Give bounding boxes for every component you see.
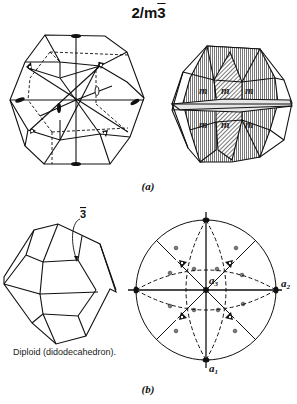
twofold-axis-top xyxy=(71,34,81,38)
twofold-axis-inner xyxy=(57,103,61,113)
caption-a: (a) xyxy=(128,180,168,192)
crystal-diagram: m m m m m m 3 xyxy=(0,0,297,404)
svg-text:m: m xyxy=(245,84,254,96)
pole-left xyxy=(134,287,139,294)
axis-label-a3: a3 xyxy=(209,274,219,288)
twofold-axis-left xyxy=(15,96,26,103)
axis-label-a2: a2 xyxy=(281,277,291,291)
twofold-axis-bottom xyxy=(71,162,81,166)
diploid-drawing xyxy=(4,219,116,344)
pole-a2 xyxy=(274,287,279,294)
svg-text:m: m xyxy=(199,118,208,130)
symmetry-polyhedron xyxy=(10,34,144,166)
diploid-outline xyxy=(4,224,116,344)
axis-label-a1: a1 xyxy=(209,362,218,376)
svg-text:m: m xyxy=(221,118,230,130)
rotoinversion-label: 3 xyxy=(80,208,86,220)
svg-text:m: m xyxy=(221,84,230,96)
pole-top xyxy=(203,218,210,223)
pole-a3 xyxy=(203,287,209,293)
stereogram xyxy=(128,212,282,368)
caption-b: (b) xyxy=(128,383,168,395)
mirror-plane-polyhedron: m m m m m m xyxy=(172,46,292,162)
svg-text:m: m xyxy=(199,84,208,96)
twofold-axis-right xyxy=(130,98,141,106)
diploid-label: Diploid (didodecahedron). xyxy=(13,347,116,357)
svg-text:m: m xyxy=(245,118,254,130)
